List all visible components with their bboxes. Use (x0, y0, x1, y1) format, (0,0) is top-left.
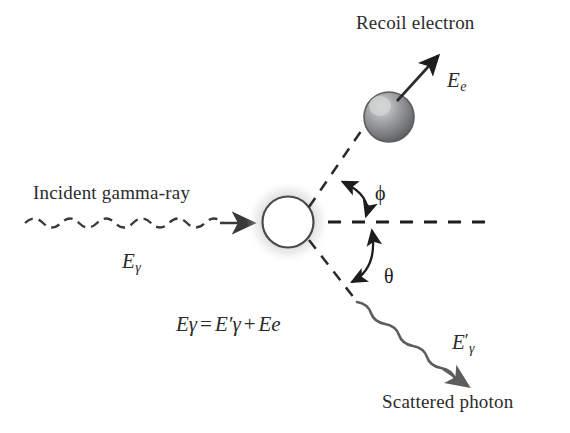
equation-lhs: E (176, 312, 189, 336)
scattered-energy-label: E′γ (452, 330, 475, 357)
target-atom (263, 197, 314, 248)
phi-angle-label: ϕ (375, 182, 386, 205)
recoil-electron-sphere (364, 92, 414, 142)
scattered-energy-subscript: γ (469, 341, 475, 356)
incident-gamma-ray-label: Incident gamma-ray (33, 182, 190, 204)
scattered-energy-symbol: E (452, 330, 465, 354)
recoil-electron-highlight (369, 96, 391, 116)
scattered-photon-label: Scattered photon (382, 391, 513, 413)
compton-scattering-diagram: Recoil electron Ee Incident gamma-ray Eγ… (0, 0, 570, 433)
equation-equals: = (200, 312, 212, 336)
theta-angle-arc (352, 231, 373, 282)
phi-angle-arc (343, 182, 367, 216)
equation-plus: + (244, 312, 256, 336)
equation-lhs-subscript: γ (189, 312, 197, 336)
theta-angle-label: θ (384, 265, 394, 288)
recoil-electron-label: Recoil electron (356, 12, 475, 34)
recoil-electron-arrow (397, 56, 438, 101)
incident-energy-label: Eγ (122, 249, 141, 276)
electron-energy-symbol: E (447, 68, 460, 92)
equation-rhs2: E (259, 312, 272, 336)
equation-rhs2-subscript: e (271, 312, 280, 336)
incident-gamma-wave (25, 219, 253, 228)
electron-energy-label: Ee (447, 68, 466, 95)
incident-energy-symbol: E (122, 249, 135, 273)
diagram-canvas (0, 0, 570, 433)
equation-rhs1: E (215, 312, 228, 336)
energy-conservation-equation: Eγ=E′γ+Ee (176, 312, 281, 337)
incident-energy-subscript: γ (135, 260, 141, 275)
equation-rhs1-subscript: γ (232, 312, 240, 336)
electron-energy-subscript: e (460, 79, 466, 94)
